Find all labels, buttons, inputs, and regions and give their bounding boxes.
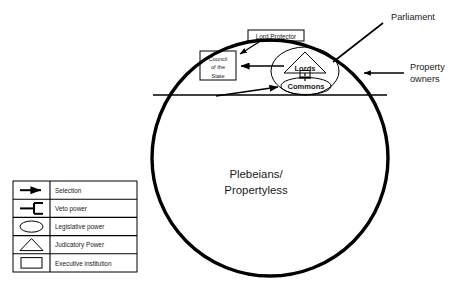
property-owners-label-line-1: Property bbox=[410, 62, 445, 72]
council-of-state-label-line-1: Council bbox=[209, 56, 228, 62]
plebeians-label-line-2: Propertyless bbox=[224, 184, 288, 196]
lord-protector-label: Lord Protector bbox=[256, 33, 297, 40]
legend-table: Selection Veto power Legislative power J… bbox=[13, 181, 137, 272]
parliament-label: Parliament bbox=[391, 12, 435, 22]
leader-line-parliament bbox=[333, 23, 383, 62]
constitution-diagram: Lord Protector Council of the State Lord… bbox=[0, 0, 474, 286]
plebeians-label-line-1: Plebeians/ bbox=[229, 168, 283, 180]
legend-label-veto-power: Veto power bbox=[55, 205, 88, 213]
legend-symbol-veto-bracket bbox=[20, 203, 43, 214]
property-owners-label-line-2: owners bbox=[410, 74, 440, 84]
legend-label-selection: Selection bbox=[55, 187, 82, 194]
legend-label-judicatory-power: Judicatory Power bbox=[55, 241, 105, 249]
legend-label-legislative-power: Legislative power bbox=[55, 223, 105, 231]
lords-label: Lords bbox=[294, 64, 315, 73]
legend-symbol-triangle bbox=[20, 239, 43, 251]
polity-circle bbox=[152, 40, 388, 276]
commons-label: Commons bbox=[287, 82, 324, 91]
legend-symbol-rectangle bbox=[21, 258, 42, 269]
legend-label-executive-institution: Executive institution bbox=[55, 260, 112, 267]
council-of-state-label-line-2: of the bbox=[211, 64, 225, 70]
legend-symbol-ellipse bbox=[20, 221, 43, 232]
council-of-state-label-line-3: State bbox=[211, 73, 224, 79]
diagram-canvas: Lord Protector Council of the State Lord… bbox=[0, 0, 474, 286]
